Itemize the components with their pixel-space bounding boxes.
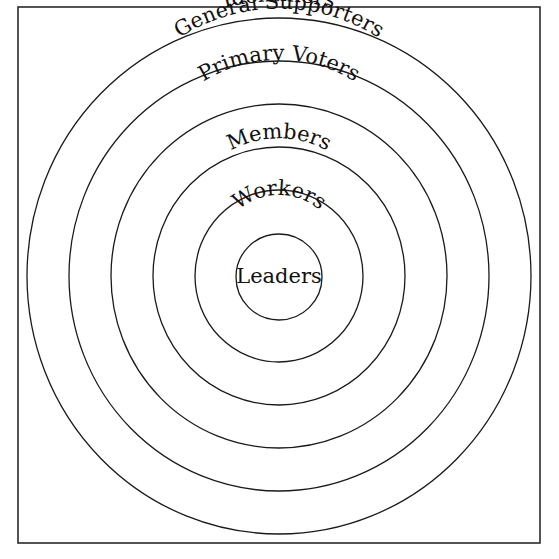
label-leaders: Leaders [236, 264, 322, 288]
label-primary-voters: Primary Voters [194, 41, 364, 86]
concentric-diagram: Identifiers General Supporters Primary V… [0, 0, 559, 559]
label-members: Members [223, 119, 335, 155]
label-workers: Workers [228, 176, 331, 214]
